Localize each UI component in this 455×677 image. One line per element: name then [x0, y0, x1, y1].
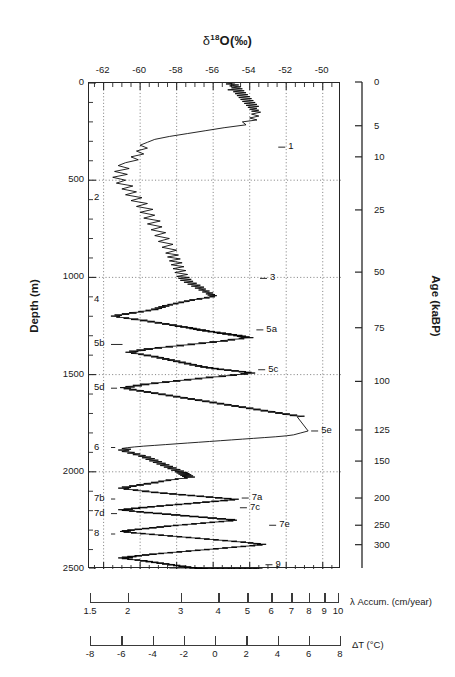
age-axis-title: Age (kaBP)	[430, 241, 442, 371]
stage-label-7d: 7d	[94, 507, 105, 518]
dt-value-8: 8	[326, 648, 354, 659]
age-tick-2: 10	[374, 151, 385, 162]
dt-tick-5	[246, 636, 247, 646]
stage-label-5b: 5b	[94, 337, 105, 348]
stage-label-8: 8	[94, 527, 99, 538]
age-tick-9: 200	[374, 492, 390, 503]
age-tick-0: 0	[374, 76, 379, 87]
accum-tick-4	[247, 593, 248, 603]
depth-axis-title: Depth (m)	[28, 246, 40, 366]
stage-label-9: 9	[275, 558, 280, 569]
stage-label-5d: 5d	[94, 381, 105, 392]
dt-tick-8	[340, 636, 341, 646]
depth-tick-5: 2500	[36, 562, 84, 573]
figure-root: δ18O(‰) Depth (m) Age (kaBP) -62-60-58-5…	[0, 0, 455, 677]
accum-tick-8	[324, 593, 325, 603]
temperature-scale-caption: ΔT (°C)	[352, 639, 384, 650]
isotope-superscript: 18	[210, 33, 219, 42]
age-tick-10: 250	[374, 519, 390, 530]
stage-label-2: 2	[94, 191, 99, 202]
stage-label-5e: 5e	[321, 424, 332, 435]
age-tick-3: 25	[374, 204, 385, 215]
dt-value-7: 6	[295, 648, 323, 659]
accum-tick-9	[338, 593, 339, 603]
accumulation-scale-caption: λ Accum. (cm/year)	[350, 596, 432, 607]
age-tick-7: 125	[374, 424, 390, 435]
age-axis-svg	[352, 80, 372, 570]
dt-value-5: 2	[232, 648, 260, 659]
age-tick-6: 100	[374, 375, 390, 386]
depth-tick-1: 500	[36, 173, 84, 184]
accum-value-3: 4	[204, 605, 232, 616]
axis-ticks	[89, 83, 332, 569]
dt-value-3: -2	[170, 648, 198, 659]
dt-tick-2	[153, 636, 154, 646]
dt-value-2: -4	[139, 648, 167, 659]
title-suffix: O(‰)	[220, 33, 253, 48]
top-tick-4: -54	[232, 64, 266, 75]
age-tick-11: 300	[374, 539, 390, 550]
stage-label-4: 4	[94, 293, 99, 304]
top-tick-5: -52	[268, 64, 302, 75]
gridlines	[89, 83, 341, 569]
age-tick-8: 150	[374, 455, 390, 466]
accum-tick-1	[128, 593, 129, 603]
accum-value-9: 10	[324, 605, 352, 616]
dt-tick-0	[90, 636, 91, 646]
dt-tick-3	[184, 636, 185, 646]
dt-tick-6	[278, 636, 279, 646]
accum-value-0: 1.5	[76, 605, 104, 616]
top-tick-3: -56	[195, 64, 229, 75]
age-tick-4: 50	[374, 266, 385, 277]
depth-tick-2: 1000	[36, 270, 84, 281]
top-tick-1: -60	[122, 64, 156, 75]
top-tick-2: -58	[159, 64, 193, 75]
page-title: δ18O(‰)	[0, 33, 455, 48]
dt-value-1: -6	[107, 648, 135, 659]
stage-label-6: 6	[94, 441, 99, 452]
top-tick-0: -62	[86, 64, 120, 75]
accum-tick-2	[181, 593, 182, 603]
depth-tick-0: 0	[36, 76, 84, 87]
top-tick-6: -50	[305, 64, 339, 75]
accum-tick-7	[309, 593, 310, 603]
dt-value-6: 4	[264, 648, 292, 659]
isotope-trace	[111, 83, 308, 569]
stage-label-7b: 7b	[94, 492, 105, 503]
accum-tick-0	[90, 593, 91, 603]
dt-tick-7	[309, 636, 310, 646]
dt-tick-1	[121, 636, 122, 646]
plot-area	[88, 82, 340, 568]
accum-tick-3	[218, 593, 219, 603]
stage-label-1: 1	[288, 140, 293, 151]
depth-tick-3: 1500	[36, 368, 84, 379]
profile-plot	[89, 83, 341, 569]
age-tick-1: 5	[374, 120, 379, 131]
stage-label-3: 3	[270, 271, 275, 282]
accum-value-1: 2	[114, 605, 142, 616]
age-tick-5: 75	[374, 322, 385, 333]
dt-value-4: 0	[201, 648, 229, 659]
dt-value-0: -8	[76, 648, 104, 659]
stage-label-5a: 5a	[266, 323, 277, 334]
accum-tick-6	[291, 593, 292, 603]
stage-leader-lines	[111, 147, 318, 565]
dt-tick-4	[215, 636, 216, 646]
stage-label-7c: 7c	[250, 501, 260, 512]
stage-label-7e: 7e	[279, 518, 290, 529]
accum-value-2: 3	[167, 605, 195, 616]
stage-label-5c: 5c	[268, 363, 278, 374]
depth-tick-4: 2000	[36, 465, 84, 476]
accum-tick-5	[271, 593, 272, 603]
